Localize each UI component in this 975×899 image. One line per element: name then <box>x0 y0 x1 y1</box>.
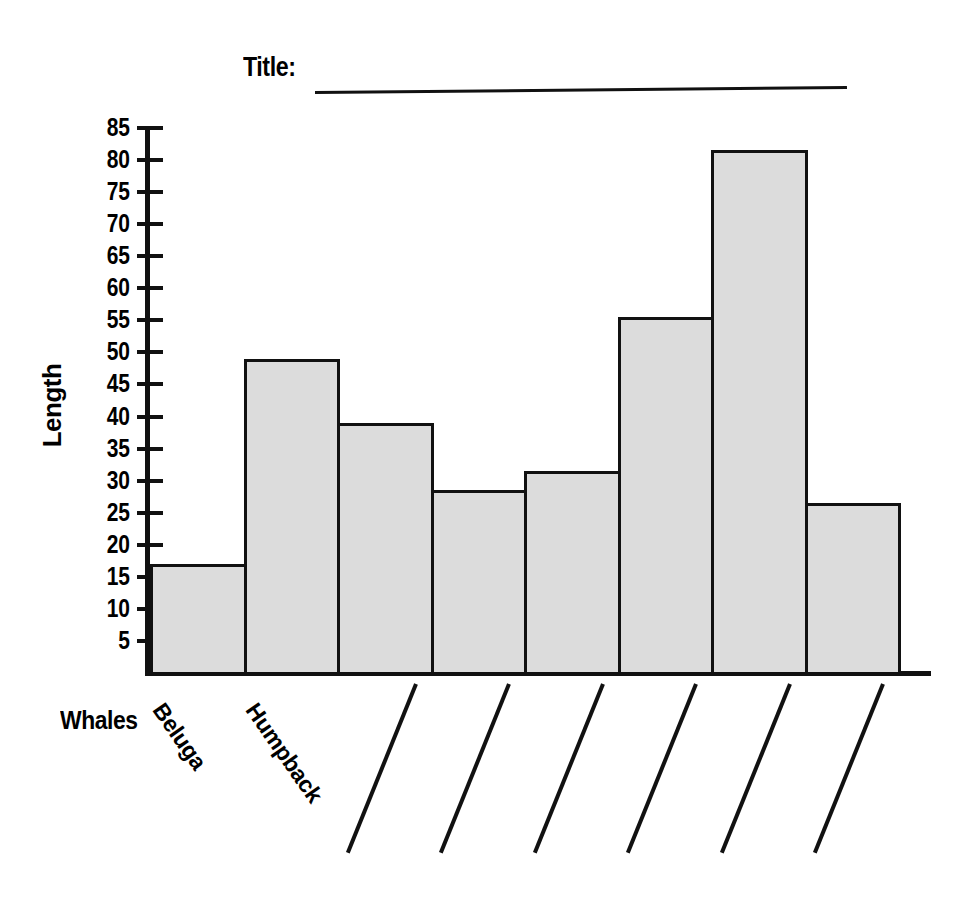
y-tick-label-40: 40 <box>81 404 130 429</box>
y-tick-label-15: 15 <box>81 564 130 589</box>
y-tick-label-5: 5 <box>81 628 130 653</box>
x-category-fill-in-line-3[interactable] <box>346 683 418 853</box>
y-tick-85 <box>137 126 163 130</box>
y-tick-label-wrap-30: 30 <box>60 468 130 494</box>
y-tick-label-wrap-40: 40 <box>60 404 130 430</box>
y-tick-75 <box>137 190 163 194</box>
y-tick-label-20: 20 <box>81 532 130 557</box>
y-tick-label-85: 85 <box>81 115 130 140</box>
y-tick-label-wrap-80: 80 <box>60 147 130 173</box>
y-tick-label-wrap-45: 45 <box>60 371 130 397</box>
y-tick-label-75: 75 <box>81 179 130 204</box>
bar-5 <box>524 471 621 675</box>
y-tick-25 <box>137 511 163 515</box>
y-tick-label-wrap-55: 55 <box>60 307 130 333</box>
y-tick-label-55: 55 <box>81 307 130 332</box>
x-category-fill-in-line-6[interactable] <box>626 683 698 853</box>
x-category-fill-in-line-5[interactable] <box>533 683 605 853</box>
y-tick-55 <box>137 318 163 322</box>
y-tick-label-80: 80 <box>81 147 130 172</box>
y-tick-20 <box>137 543 163 547</box>
y-tick-label-30: 30 <box>81 468 130 493</box>
y-tick-label-60: 60 <box>81 275 130 300</box>
y-tick-label-wrap-65: 65 <box>60 243 130 269</box>
y-tick-label-45: 45 <box>81 371 130 396</box>
y-tick-label-wrap-85: 85 <box>60 115 130 141</box>
bar-1 <box>150 564 247 675</box>
y-tick-label-wrap-50: 50 <box>60 339 130 365</box>
y-tick-label-wrap-35: 35 <box>60 436 130 462</box>
y-tick-label-wrap-75: 75 <box>60 179 130 205</box>
y-tick-label-wrap-10: 10 <box>60 596 130 622</box>
x-category-label-2: Humpback <box>240 698 328 808</box>
y-tick-40 <box>137 415 163 419</box>
bar-6 <box>618 317 715 675</box>
bar-7 <box>711 150 808 675</box>
y-tick-65 <box>137 254 163 258</box>
bar-4 <box>431 490 528 675</box>
y-tick-label-25: 25 <box>81 500 130 525</box>
y-tick-label-wrap-15: 15 <box>60 564 130 590</box>
y-tick-60 <box>137 286 163 290</box>
y-tick-50 <box>137 350 163 354</box>
x-category-fill-in-line-4[interactable] <box>439 683 511 853</box>
x-category-label-1: Beluga <box>147 698 212 775</box>
y-tick-35 <box>137 447 163 451</box>
y-tick-80 <box>137 158 163 162</box>
y-tick-label-10: 10 <box>81 596 130 621</box>
x-category-fill-in-line-7[interactable] <box>720 683 792 853</box>
y-tick-label-70: 70 <box>81 211 130 236</box>
y-tick-label-50: 50 <box>81 339 130 364</box>
y-tick-label-wrap-70: 70 <box>60 211 130 237</box>
y-tick-label-65: 65 <box>81 243 130 268</box>
y-tick-label-wrap-60: 60 <box>60 275 130 301</box>
bar-3 <box>337 423 434 675</box>
bar-8 <box>805 503 902 675</box>
y-tick-label-wrap-20: 20 <box>60 532 130 558</box>
y-tick-label-wrap-5: 5 <box>60 628 130 654</box>
y-tick-45 <box>137 382 163 386</box>
y-tick-label-wrap-25: 25 <box>60 500 130 526</box>
y-tick-30 <box>137 479 163 483</box>
x-category-fill-in-line-8[interactable] <box>813 683 885 853</box>
y-tick-70 <box>137 222 163 226</box>
bar-2 <box>244 359 341 675</box>
y-tick-label-35: 35 <box>81 436 130 461</box>
worksheet-page: Title: Length 85807570656055504540353025… <box>0 0 975 899</box>
bar-chart-plot: Length 858075706560555045403530252015105… <box>0 0 975 899</box>
x-axis-title: Whales <box>60 705 137 736</box>
